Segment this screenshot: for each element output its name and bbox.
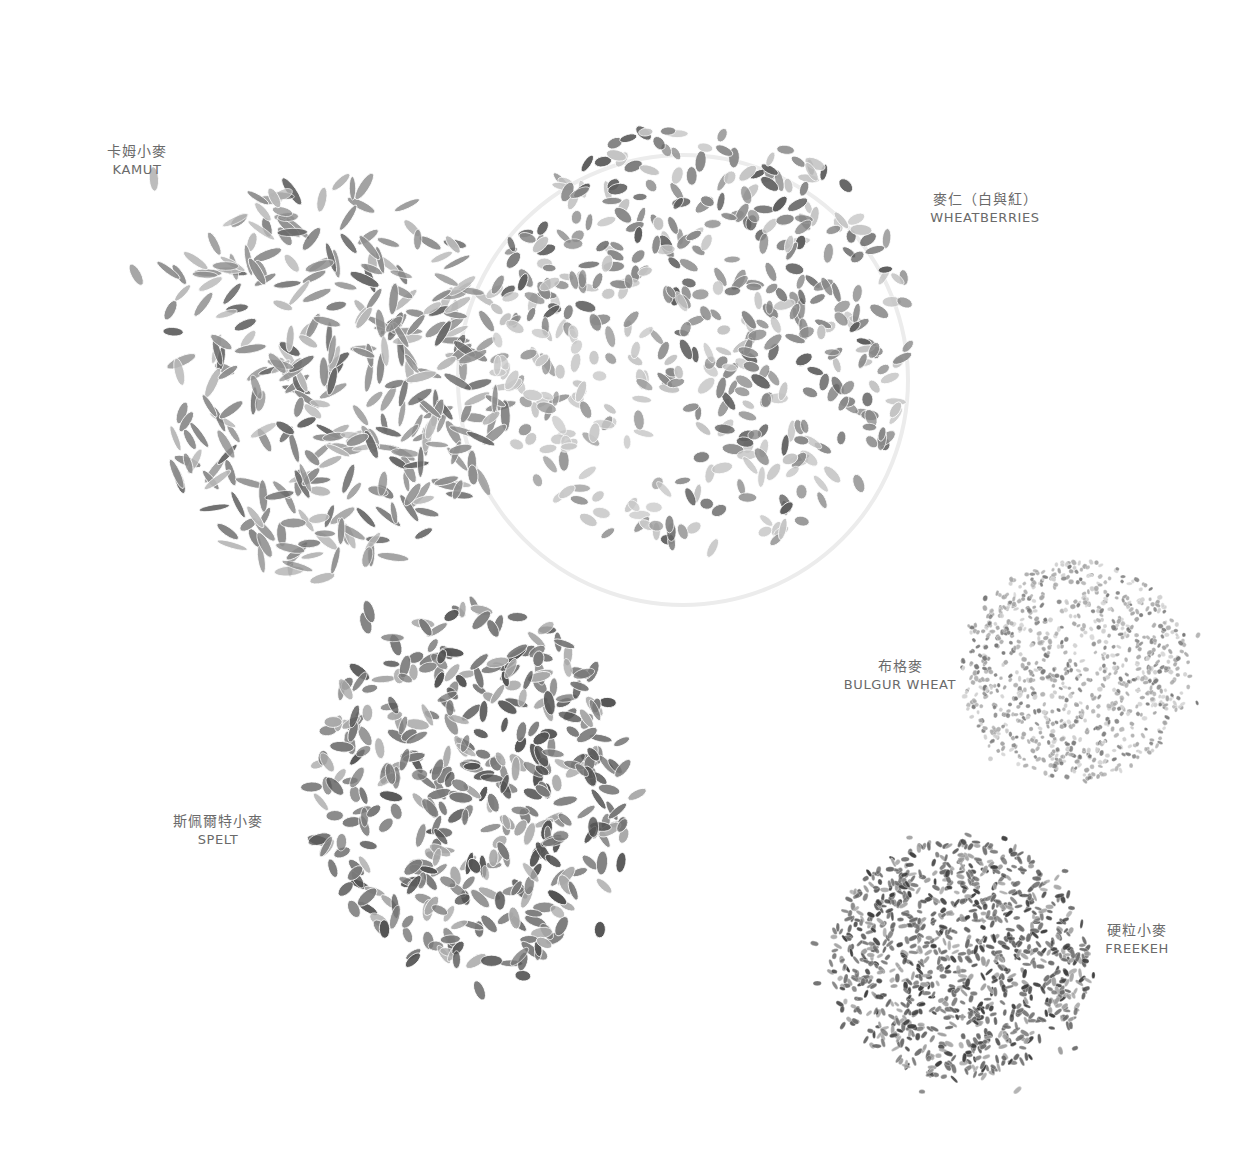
kamut-label-zh: 卡姆小麥 [82, 142, 192, 161]
freekeh-label-en: FREEKEH [1082, 940, 1192, 958]
freekeh-label: 硬粒小麥 FREEKEH [1082, 921, 1192, 957]
freekeh-pile [810, 832, 1095, 1096]
freekeh-label-zh: 硬粒小麥 [1082, 921, 1192, 940]
wheatberries-pile [484, 123, 916, 559]
spelt-label-zh: 斯佩爾特小麥 [148, 812, 288, 831]
bulgur-pile [959, 558, 1201, 784]
wheatberries-label: 麥仁（白與紅） WHEATBERRIES [905, 190, 1065, 226]
bulgur-label-en: BULGUR WHEAT [820, 676, 980, 694]
wheatberries-label-en: WHEATBERRIES [905, 209, 1065, 227]
wheatberries-label-zh: 麥仁（白與紅） [905, 190, 1065, 209]
grain-piles [126, 123, 1201, 1095]
bulgur-label: 布格麥 BULGUR WHEAT [820, 657, 980, 693]
kamut-label: 卡姆小麥 KAMUT [82, 142, 192, 178]
kamut-label-en: KAMUT [82, 161, 192, 179]
spelt-pile [300, 594, 648, 1001]
spelt-label-en: SPELT [148, 831, 288, 849]
bulgur-label-zh: 布格麥 [820, 657, 980, 676]
spelt-label: 斯佩爾特小麥 SPELT [148, 812, 288, 848]
